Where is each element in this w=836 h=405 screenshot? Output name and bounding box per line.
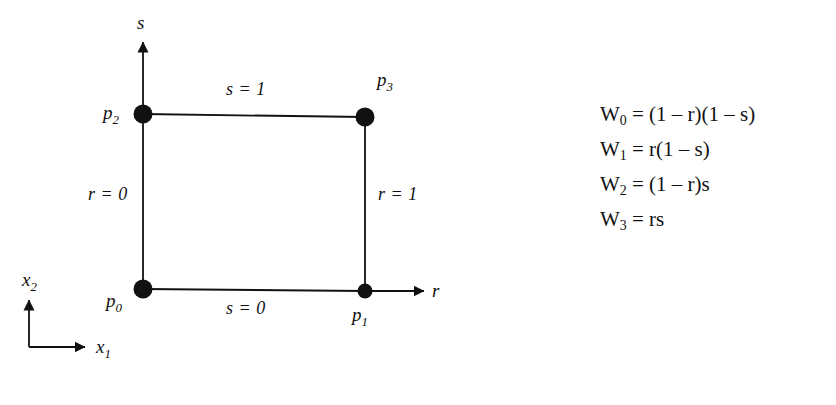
edge-label-s-equals-1: s = 1 <box>226 80 266 98</box>
node-label-p2: p2 <box>103 103 119 127</box>
edge-label-r-equals-1: r = 1 <box>378 185 418 203</box>
node-p3[interactable] <box>356 108 375 127</box>
element-outline <box>143 114 365 291</box>
edge-label-s-equals-0: s = 0 <box>226 299 266 317</box>
node-p0[interactable] <box>134 280 153 299</box>
node-p2[interactable] <box>134 105 153 124</box>
axis-label-s: s <box>137 13 144 32</box>
axis-label-x1: x1 <box>96 337 111 361</box>
equation-w3: W3 = rs <box>600 209 836 244</box>
equation-w0: W0 = (1 – r)(1 – s) <box>600 104 836 139</box>
element-edge-bottom <box>143 289 365 291</box>
global-axes <box>29 300 85 347</box>
shape-function-equations: W0 = (1 – r)(1 – s) W1 = r(1 – s) W2 = (… <box>600 104 836 244</box>
node-label-p3: p3 <box>377 70 393 94</box>
equation-w2: W2 = (1 – r)s <box>600 174 836 209</box>
node-p1[interactable] <box>358 284 373 299</box>
equation-w1: W1 = r(1 – s) <box>600 139 836 174</box>
axis-label-x2: x2 <box>22 270 37 294</box>
node-label-p1: p1 <box>352 305 368 329</box>
element-edge-top <box>143 114 365 117</box>
node-label-p0: p0 <box>106 291 122 315</box>
edge-label-r-equals-0: r = 0 <box>88 185 128 203</box>
axis-label-r: r <box>432 281 439 300</box>
figure-canvas: p2 p3 p0 p1 s = 1 s = 0 r = 0 r = 1 s r … <box>0 0 836 405</box>
